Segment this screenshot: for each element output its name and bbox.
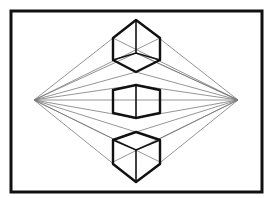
perspective-diagram: [0, 0, 272, 198]
cube-on-horizon: [113, 85, 160, 118]
cube-above-horizon: [113, 20, 160, 72]
cube-below-horizon: [113, 132, 160, 182]
